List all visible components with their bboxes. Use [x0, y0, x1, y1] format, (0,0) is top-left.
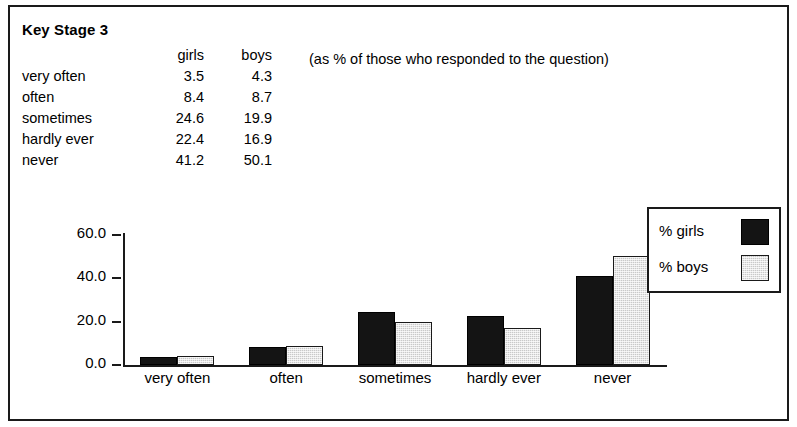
legend-swatch-girls	[741, 219, 769, 245]
legend-label-boys: % boys	[659, 258, 708, 275]
y-axis-tick-mark	[112, 277, 121, 279]
chart-legend: % girls % boys	[647, 207, 781, 293]
bar-group: hardly ever	[449, 235, 558, 365]
bar-girls	[467, 316, 504, 365]
bar-girls	[576, 276, 613, 365]
bar-girls	[358, 312, 395, 365]
legend-item-girls: % girls	[659, 218, 769, 248]
y-axis-tick-mark	[112, 234, 121, 236]
bar-group: sometimes	[341, 235, 450, 365]
bar-girls	[249, 347, 286, 365]
bar-group: often	[232, 235, 341, 365]
bar-boys	[504, 328, 541, 365]
bar-boys	[613, 256, 650, 365]
legend-item-boys: % boys	[659, 254, 769, 284]
y-axis-tick-mark	[112, 364, 121, 366]
bar-boys	[286, 346, 323, 365]
x-axis-tick-label: never	[533, 369, 693, 386]
y-axis-tick-mark	[112, 321, 121, 323]
bar-boys	[177, 356, 214, 365]
y-axis-tick-label: 20.0	[44, 311, 106, 328]
bar-girls	[140, 357, 177, 365]
y-axis-tick-label: 40.0	[44, 267, 106, 284]
x-axis-line	[123, 365, 667, 367]
figure-panel: Key Stage 3 girls boys very often 3.5 4.…	[8, 5, 789, 421]
y-axis-tick-label: 60.0	[44, 224, 106, 241]
legend-label-girls: % girls	[659, 222, 704, 239]
bar-group: very often	[123, 235, 232, 365]
legend-swatch-boys	[741, 255, 769, 281]
bar-boys	[395, 322, 432, 365]
bar-groups: very oftenoftensometimeshardly evernever	[123, 235, 667, 365]
